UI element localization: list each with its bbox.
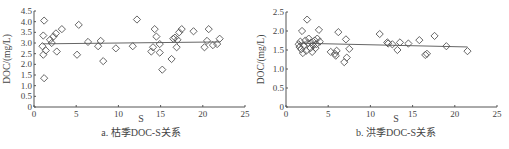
chart-panel-a: 051015202500.51.01.52.02.53.03.54.04.5DO…	[0, 0, 254, 149]
diamond-marker	[133, 16, 140, 23]
y-tick-label: 1.5	[273, 45, 285, 55]
diamond-marker	[341, 59, 348, 66]
diamond-marker	[298, 27, 305, 34]
diamond-marker	[41, 75, 48, 82]
diamond-marker	[40, 51, 47, 58]
diamond-marker	[464, 48, 471, 55]
y-tick-label: 0	[28, 102, 33, 112]
diamond-marker	[159, 66, 166, 73]
y-tick-label: 2.0	[21, 59, 33, 69]
data-points	[295, 16, 471, 66]
chart-caption: a. 枯季DOC-S关系	[14, 124, 268, 139]
diamond-marker	[376, 30, 383, 37]
diamond-marker	[190, 28, 197, 35]
diamond-marker	[205, 26, 212, 33]
chart-caption: b. 洪季DOC-S关系	[269, 124, 509, 139]
y-tick-label: 0.5	[21, 91, 33, 101]
y-tick-label: 4.5	[21, 6, 33, 16]
diamond-marker	[304, 16, 311, 23]
diamond-marker	[346, 45, 353, 52]
diamond-marker	[112, 45, 119, 52]
diamond-marker	[416, 37, 423, 44]
diamond-marker	[40, 32, 47, 39]
diamond-marker	[173, 44, 180, 51]
y-tick-label: 1.5	[21, 70, 33, 80]
diamond-marker	[156, 40, 163, 47]
trend-line	[299, 43, 468, 47]
y-tick-label: 2.5	[273, 7, 285, 17]
diamond-marker	[41, 17, 48, 24]
y-tick-label: 3.5	[21, 27, 33, 37]
trend-line	[42, 42, 219, 44]
axes: 051015202500.51.01.52.02.53.03.54.04.5	[21, 6, 250, 119]
y-tick-label: 0.5	[273, 83, 285, 93]
diamond-marker	[151, 26, 158, 33]
data-points	[39, 16, 223, 82]
axes: 051015202500.51.01.52.02.5	[273, 7, 502, 119]
y-tick-label: 1.0	[21, 81, 33, 91]
diamond-marker	[153, 33, 160, 40]
diamond-marker	[315, 26, 322, 33]
diamond-marker	[129, 43, 136, 50]
diamond-marker	[312, 45, 319, 52]
chart-panel-b: 051015202500.51.01.52.02.5DOC/(mg/L) S b…	[255, 0, 509, 149]
y-axis-label: DOC/(mg/L)	[256, 35, 267, 85]
diamond-marker	[216, 35, 223, 42]
y-tick-label: 4.0	[21, 17, 33, 27]
diamond-marker	[53, 48, 60, 55]
diamond-marker	[394, 46, 401, 53]
y-tick-label: 2.5	[21, 49, 33, 59]
x-axis-label: S	[269, 113, 509, 124]
y-tick-label: 2.0	[273, 26, 285, 36]
y-tick-label: 0	[280, 102, 285, 112]
diamond-marker	[431, 32, 438, 39]
diamond-marker	[84, 38, 91, 45]
diamond-marker	[58, 26, 65, 33]
y-tick-label: 3.0	[21, 38, 33, 48]
diamond-marker	[342, 36, 349, 43]
diamond-marker	[75, 21, 82, 28]
y-axis-label: DOC/(mg/L)	[2, 34, 13, 84]
diamond-marker	[73, 51, 80, 58]
diamond-marker	[156, 49, 163, 56]
diamond-marker	[168, 55, 175, 62]
diamond-marker	[335, 29, 342, 36]
diamond-marker	[100, 58, 107, 65]
diamond-marker	[42, 47, 49, 54]
y-tick-label: 1.0	[273, 64, 285, 74]
x-axis-label: S	[14, 113, 268, 124]
diamond-marker	[343, 54, 350, 61]
